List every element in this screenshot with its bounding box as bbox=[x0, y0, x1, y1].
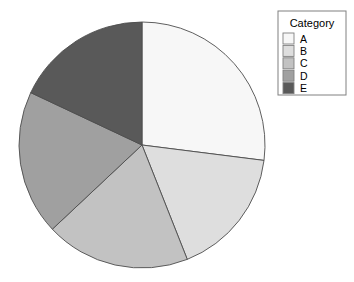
legend-label-c: C bbox=[300, 57, 308, 69]
pie-slices-group bbox=[19, 22, 265, 268]
pie-chart-figure: Category ABCDE bbox=[0, 0, 354, 282]
legend-label-a: A bbox=[300, 33, 307, 45]
legend-label-d: D bbox=[300, 70, 308, 82]
legend-swatch-d[interactable] bbox=[283, 70, 294, 81]
chart-legend: Category ABCDE bbox=[278, 11, 346, 95]
legend-swatch-a[interactable] bbox=[283, 33, 294, 44]
legend-swatch-c[interactable] bbox=[283, 58, 294, 69]
chart-canvas: Category ABCDE bbox=[0, 0, 354, 282]
legend-label-b: B bbox=[300, 45, 307, 57]
legend-swatch-e[interactable] bbox=[283, 83, 294, 94]
legend-title: Category bbox=[290, 17, 335, 29]
legend-label-e: E bbox=[300, 82, 307, 94]
legend-swatch-b[interactable] bbox=[283, 45, 294, 56]
